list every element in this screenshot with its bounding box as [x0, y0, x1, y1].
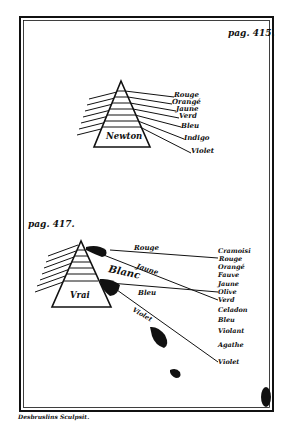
vrai-figure: pag. 417. Vrai — [28, 219, 251, 378]
color-label: Fauve — [217, 271, 239, 279]
color-label: Orangé — [218, 263, 245, 271]
color-label: Verd — [218, 296, 235, 304]
ray-label-bleu: Bleu — [137, 288, 156, 297]
page-ref-bottom: pag. 417. — [28, 219, 75, 229]
color-label: Jaune — [216, 280, 239, 288]
prism-label-vrai: Vrai — [70, 290, 90, 300]
color-label: Verd — [179, 111, 197, 120]
ray-label-rouge: Rouge — [133, 243, 159, 252]
newton-figure: pag. 415. Newton — [77, 28, 275, 155]
color-label: Rouge — [218, 255, 242, 263]
ink-blot — [261, 387, 271, 407]
color-label: Agathe — [217, 341, 244, 349]
plate-frame — [20, 17, 273, 411]
color-labels-top: Rouge Orangé Jaune Verd Bleu Indigo Viol… — [172, 90, 215, 155]
prism-label-newton: Newton — [105, 131, 142, 141]
color-label: Bleu — [217, 316, 235, 324]
color-label: Olive — [218, 288, 237, 296]
color-label: Indigo — [183, 133, 210, 142]
engraver-signature: Desbruslins Sculpsit. — [17, 413, 89, 421]
color-labels-bottom: Cramoisi Rouge Orangé Fauve Jaune Olive … — [216, 247, 251, 366]
color-label: Cramoisi — [218, 247, 251, 255]
color-label: Violant — [218, 327, 244, 335]
color-label: Bleu — [180, 121, 199, 130]
color-label: Celadon — [218, 306, 248, 314]
engraving-plate: pag. 415. Newton — [0, 0, 289, 430]
color-label: Violet — [218, 358, 239, 366]
page-ref-top: pag. 415. — [228, 28, 275, 38]
color-label: Violet — [191, 146, 215, 155]
